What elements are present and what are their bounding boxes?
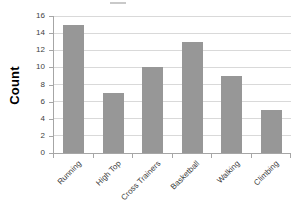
bar-climbing [261,110,282,153]
y-tick-mark-4 [49,119,53,120]
bar-high-top [103,93,124,153]
x-tick-mark-0 [53,154,54,158]
category-label-basketball: Basketball [169,159,201,191]
y-axis-title: Count [7,66,22,105]
x-tick-mark-2 [132,154,133,158]
x-tick-mark-1 [93,154,94,158]
y-tick-label-8: 8 [29,80,45,90]
x-tick-mark-5 [251,154,252,158]
y-tick-mark-6 [49,102,53,103]
y-tick-mark-2 [49,136,53,137]
category-label-running: Running [56,159,83,186]
y-tick-label-2: 2 [29,131,45,141]
gridline-y8 [54,84,291,85]
bar-running [63,25,84,153]
bar-walking [221,76,242,153]
category-label-cross-trainers: Cross Trainers [119,159,162,202]
gridline-y16 [54,16,291,17]
x-tick-mark-4 [211,154,212,158]
y-tick-label-14: 14 [29,28,45,38]
y-tick-mark-16 [49,16,53,17]
y-tick-label-16: 16 [29,11,45,21]
y-tick-label-10: 10 [29,62,45,72]
y-tick-mark-12 [49,50,53,51]
y-tick-mark-10 [49,67,53,68]
y-axis-title-wrap: Count [4,16,24,154]
bar-basketball [182,42,203,153]
gridline-y4 [54,118,291,119]
y-tick-label-0: 0 [29,148,45,158]
y-tick-label-4: 4 [29,114,45,124]
category-label-high-top: High Top [94,159,123,188]
plot-area [53,16,291,154]
gridline-y6 [54,101,291,102]
cropped-title-fragment [110,2,126,4]
y-tick-label-6: 6 [29,97,45,107]
category-label-walking: Walking [215,159,241,185]
y-tick-label-12: 12 [29,45,45,55]
gridline-y14 [54,33,291,34]
bar-cross-trainers [142,67,163,153]
y-tick-mark-8 [49,85,53,86]
bar-chart: Count 0246810121416 RunningHigh TopCross… [0,0,292,222]
x-tick-mark-6 [290,154,291,158]
category-label-climbing: Climbing [252,159,280,187]
gridline-y2 [54,135,291,136]
gridline-y12 [54,50,291,51]
gridline-y10 [54,67,291,68]
x-tick-mark-3 [172,154,173,158]
y-tick-mark-14 [49,33,53,34]
